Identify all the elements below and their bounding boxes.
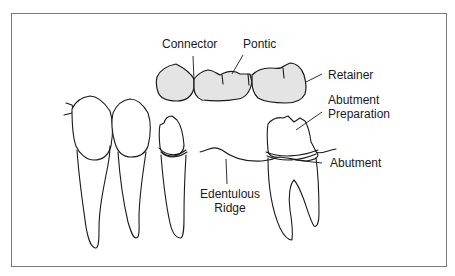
connector-leader xyxy=(193,56,194,80)
natural-tooth-1 xyxy=(72,96,112,248)
natural-tooth-3 xyxy=(159,116,187,238)
label-connector: Connector xyxy=(162,37,217,51)
label-abutment-preparation-line1: Abutment xyxy=(328,93,390,107)
retainer-leader xyxy=(306,74,322,82)
natural-tooth-2 xyxy=(112,99,150,238)
pontic xyxy=(194,70,252,101)
bridge-prosthesis xyxy=(156,63,306,103)
pontic-leader xyxy=(232,55,243,74)
retainer-right xyxy=(252,63,306,103)
label-abutment-preparation-line2: Preparation xyxy=(328,107,390,121)
label-abutment-preparation: Abutment Preparation xyxy=(328,93,390,121)
label-edentulous-ridge-line1: Edentulous xyxy=(200,187,260,201)
edentulous-ridge-leader xyxy=(226,159,227,184)
retainer-left xyxy=(156,64,194,101)
abutment-tooth xyxy=(266,116,319,240)
label-pontic: Pontic xyxy=(243,37,276,51)
label-edentulous-ridge: Edentulous Ridge xyxy=(200,187,260,215)
bridge-diagram xyxy=(0,0,455,276)
label-abutment: Abutment xyxy=(330,156,381,170)
label-retainer: Retainer xyxy=(328,68,373,82)
label-edentulous-ridge-line2: Ridge xyxy=(200,201,260,215)
